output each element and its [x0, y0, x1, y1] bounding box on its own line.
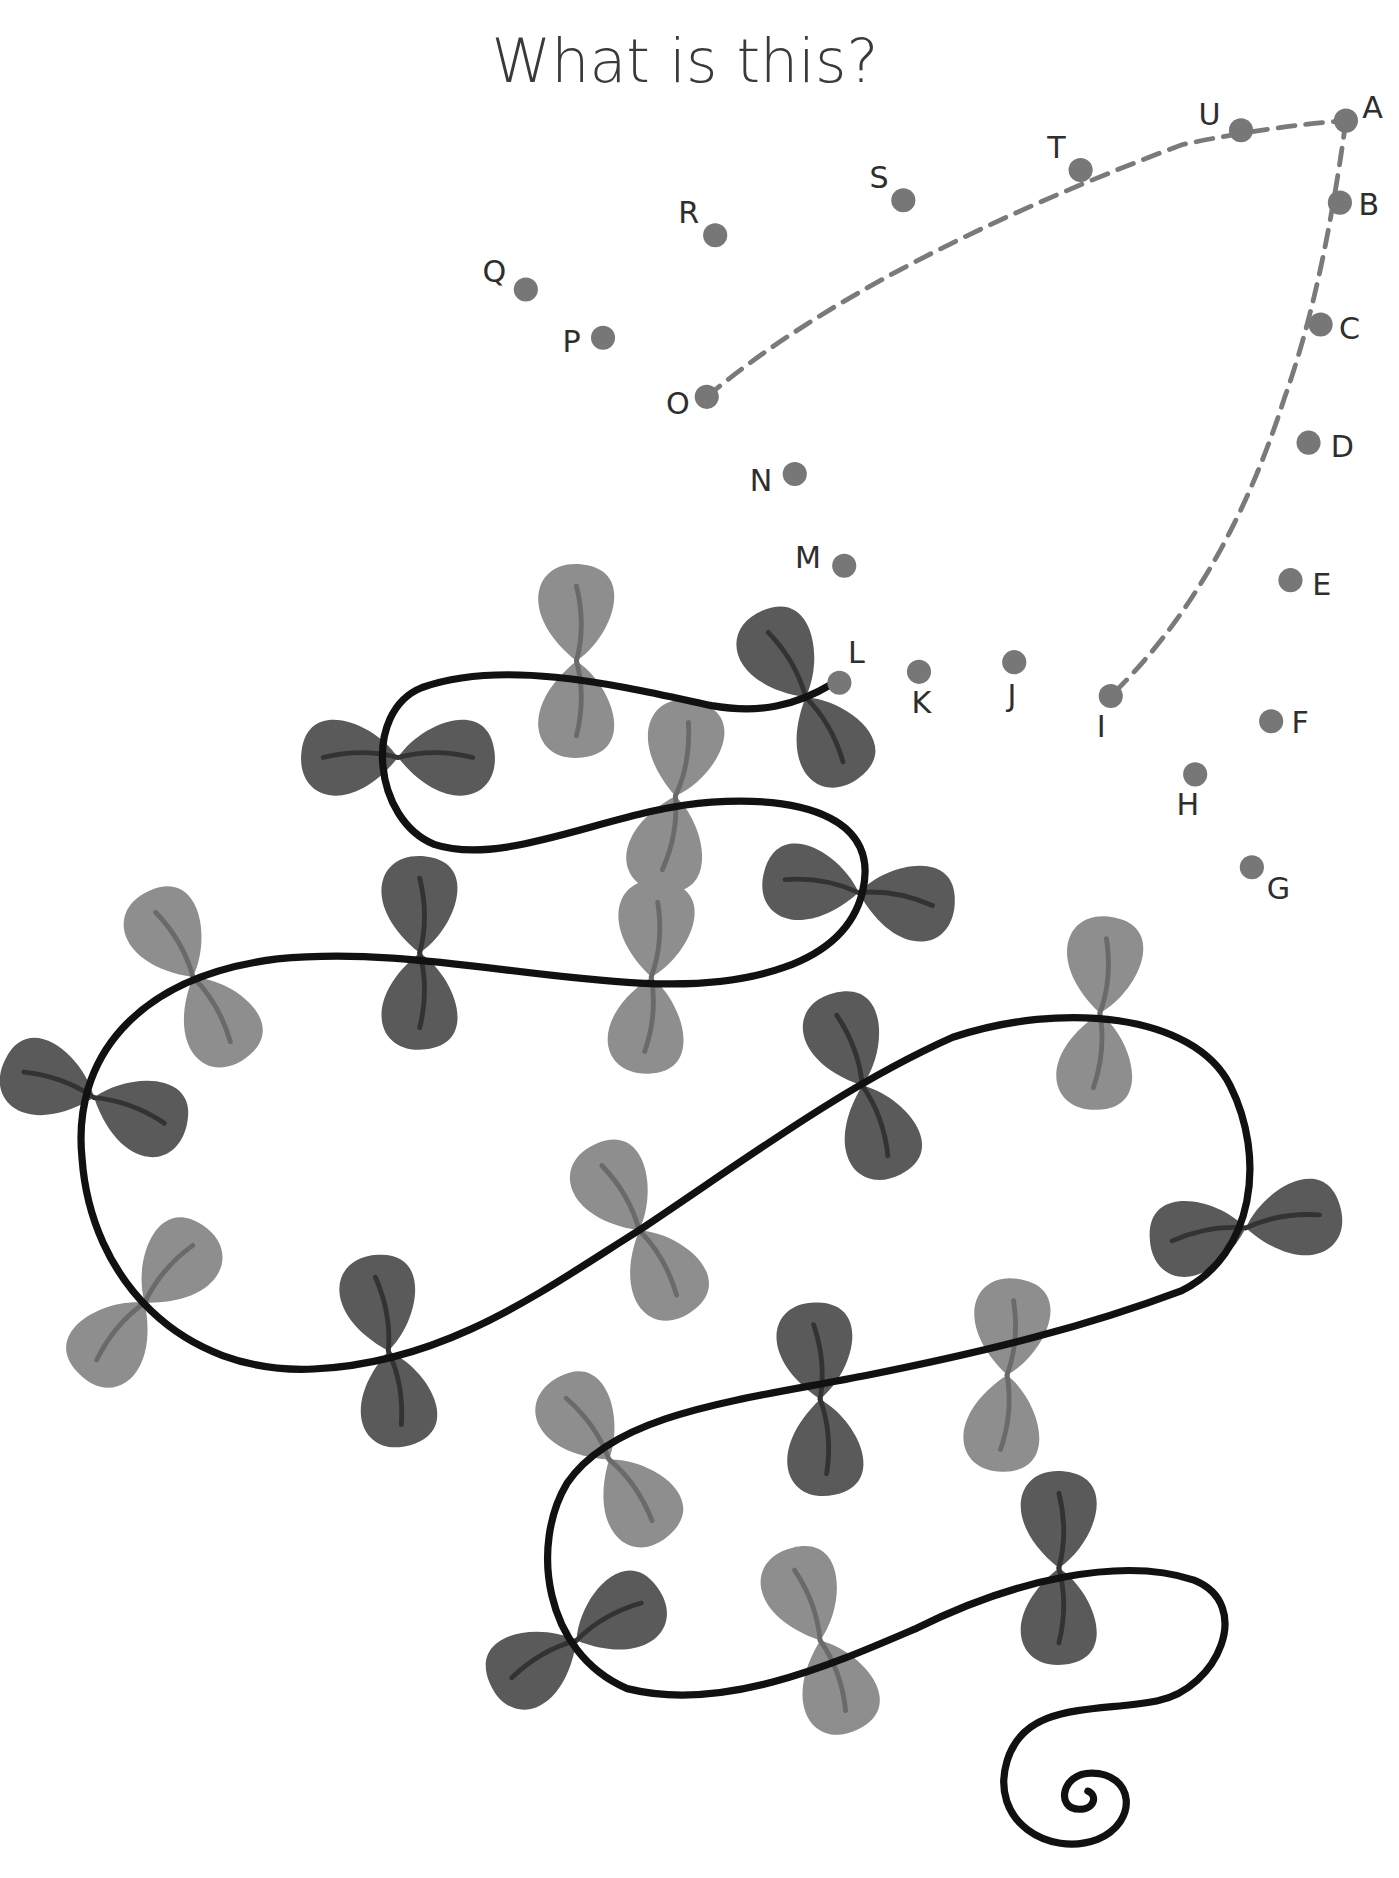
dot-label-i: I	[1097, 709, 1106, 744]
dot-to-dot-puzzle: What is this? ABCDEFGHIJKLMNOPQRSTU	[0, 0, 1399, 1878]
dot-label-h: H	[1177, 787, 1200, 822]
leaf-pair	[301, 720, 495, 796]
dot-label-e: E	[1312, 567, 1331, 602]
dot-d[interactable]	[1296, 431, 1320, 455]
dot-label-n: N	[750, 463, 773, 498]
leaf-pair	[1053, 913, 1146, 1113]
dot-g[interactable]	[1240, 855, 1264, 879]
dot-label-a: A	[1362, 90, 1383, 125]
dot-label-d: D	[1331, 429, 1354, 464]
dot-label-b: B	[1359, 187, 1380, 222]
dot-c[interactable]	[1309, 312, 1333, 336]
dot-e[interactable]	[1278, 568, 1302, 592]
dot-label-f: F	[1291, 705, 1308, 740]
leaf-pair	[1021, 1471, 1097, 1665]
dot-label-g: G	[1267, 871, 1290, 906]
dot-n[interactable]	[783, 462, 807, 486]
dot-label-p: P	[563, 324, 581, 359]
leaf-pair	[334, 1249, 443, 1453]
dot-label-q: Q	[483, 254, 507, 289]
dot-label-c: C	[1339, 311, 1360, 346]
leaf-pair	[474, 1559, 680, 1722]
dot-j[interactable]	[1002, 650, 1026, 674]
leaf-pair	[774, 1299, 867, 1499]
dot-r[interactable]	[703, 223, 727, 247]
dot-label-m: M	[795, 540, 821, 575]
dot-label-u: U	[1199, 97, 1221, 132]
dot-k[interactable]	[907, 660, 931, 684]
leaf-pair	[751, 1536, 889, 1744]
dot-label-j: J	[1005, 678, 1016, 713]
dot-f[interactable]	[1259, 709, 1283, 733]
dot-h[interactable]	[1183, 762, 1207, 786]
dot-l[interactable]	[827, 671, 851, 695]
dot-u[interactable]	[1229, 118, 1253, 142]
dot-q[interactable]	[514, 277, 538, 301]
dot-label-k: K	[912, 685, 933, 720]
dot-o[interactable]	[695, 385, 719, 409]
dot-t[interactable]	[1069, 158, 1093, 182]
leaf-pair	[0, 1029, 198, 1167]
leaf-pair	[621, 694, 730, 898]
dot-a[interactable]	[1334, 109, 1358, 133]
dot-p[interactable]	[591, 326, 615, 350]
dot-b[interactable]	[1328, 191, 1352, 215]
dot-label-t: T	[1046, 130, 1066, 165]
leaf-pair	[961, 1275, 1054, 1475]
dot-label-l: L	[848, 635, 865, 670]
dot-i[interactable]	[1099, 684, 1123, 708]
dot-m[interactable]	[832, 554, 856, 578]
leaf-pair	[605, 877, 698, 1077]
leaf-pair	[382, 856, 458, 1050]
dot-label-s: S	[870, 160, 889, 195]
dot-s[interactable]	[891, 188, 915, 212]
dashed-line-a-to-i	[1111, 121, 1346, 696]
dot-label-o: O	[666, 386, 690, 421]
dot-label-r: R	[678, 195, 699, 230]
dashed-line-o-to-a	[707, 121, 1346, 397]
leaf-pair	[538, 564, 614, 758]
page-title: What is this?	[492, 26, 879, 96]
